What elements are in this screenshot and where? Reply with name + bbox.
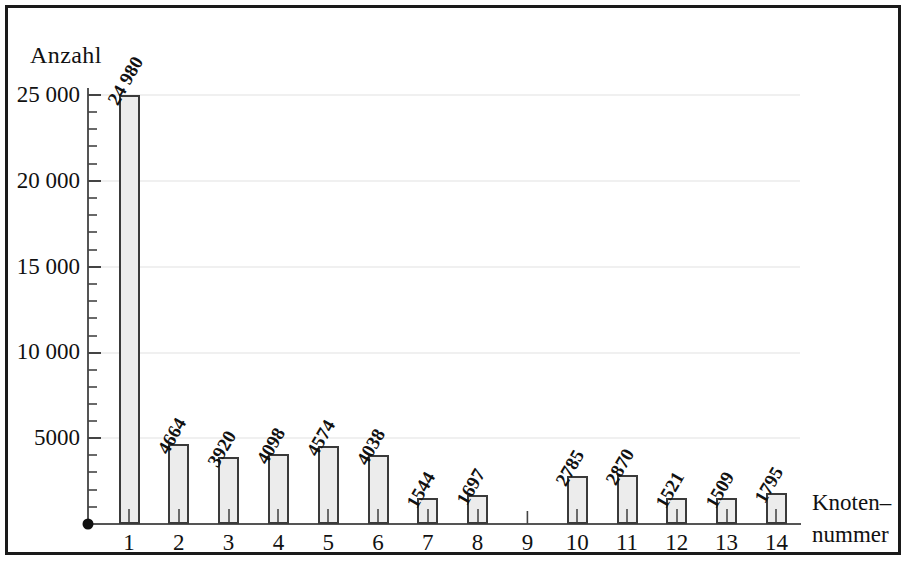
y-tick-label: 10 000 xyxy=(17,339,80,365)
x-tick-label: 13 xyxy=(715,530,738,556)
y-tick-label: 5000 xyxy=(34,425,80,451)
x-axis-title-line1: Knoten– xyxy=(812,487,891,519)
x-tick-label: 7 xyxy=(422,530,434,556)
x-tick-label: 2 xyxy=(173,530,185,556)
x-tick-label: 11 xyxy=(616,530,638,556)
y-minor-ticks xyxy=(88,112,97,507)
x-tick-label: 8 xyxy=(472,530,484,556)
x-axis-title-line2: nummer xyxy=(812,519,891,551)
x-tick-label: 4 xyxy=(273,530,285,556)
y-tick-label: 15 000 xyxy=(17,254,80,280)
x-axis-title: Knoten– nummer xyxy=(812,487,891,551)
x-tick-label: 1 xyxy=(123,530,135,556)
bar-chart: Anzahl Knoten– nummer 500010 00015 00020… xyxy=(0,0,906,569)
y-tick-label: 25 000 xyxy=(17,82,80,108)
origin-marker xyxy=(83,519,94,530)
gridlines xyxy=(88,95,800,438)
y-tick-label: 20 000 xyxy=(17,168,80,194)
x-tick-label: 3 xyxy=(223,530,235,556)
x-tick-label: 12 xyxy=(665,530,688,556)
x-tick-label: 14 xyxy=(765,530,788,556)
x-tick-label: 9 xyxy=(522,530,534,556)
bar xyxy=(119,95,140,524)
x-tick-label: 6 xyxy=(372,530,384,556)
x-tick-label: 5 xyxy=(322,530,334,556)
x-tick-label: 10 xyxy=(566,530,589,556)
y-axis-tick-labels: 500010 00015 00020 00025 000 xyxy=(0,0,80,569)
